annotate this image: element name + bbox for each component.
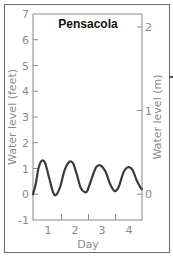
water-level-line	[33, 160, 142, 195]
x-tick-2: 2	[72, 224, 79, 237]
right-y-axis: 2 1 0	[137, 21, 152, 201]
x-tick-4: 4	[126, 224, 133, 237]
left-tick-4: 4	[22, 85, 29, 98]
x-axis-label: Day	[77, 238, 99, 251]
left-tick-neg1: -1	[18, 214, 29, 227]
left-tick-3: 3	[22, 111, 29, 124]
left-tick-6: 6	[22, 34, 29, 47]
x-tick-1: 1	[45, 224, 52, 237]
left-tick-7: 7	[22, 8, 29, 21]
chart: 7 6 5 4 3 2 1 0 -1 Water level (feet) 2 …	[0, 0, 173, 261]
right-tick-0: 0	[145, 188, 152, 201]
chart-title: Pensacola	[58, 17, 118, 31]
x-axis: 1 2 3 4	[45, 214, 133, 237]
left-y-axis: 7 6 5 4 3 2 1 0 -1	[18, 8, 38, 227]
right-axis-label: Water level (m)	[151, 75, 164, 160]
x-tick-3: 3	[99, 224, 106, 237]
left-tick-0: 0	[22, 188, 29, 201]
left-axis-label: Water level (feet)	[6, 69, 19, 165]
left-tick-2: 2	[22, 137, 29, 150]
left-tick-5: 5	[22, 60, 29, 73]
right-tick-2: 2	[145, 21, 152, 34]
left-tick-1: 1	[22, 163, 29, 176]
